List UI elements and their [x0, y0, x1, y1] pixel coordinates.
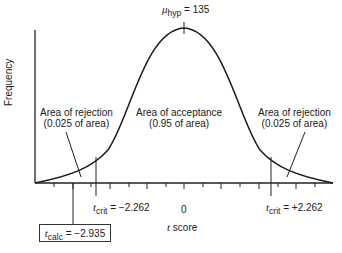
center-tick-label: 0 — [181, 204, 187, 215]
left-critical-label: tcrit = −2.262 — [93, 202, 150, 214]
calc-subscript: calc — [48, 232, 63, 242]
right-rejection-line2: (0.025 of area) — [258, 118, 331, 129]
right-rejection-line1: Area of rejection — [258, 107, 331, 118]
left-rejection-label: Area of rejection (0.025 of area) — [40, 107, 113, 129]
peak-value: = 135 — [184, 4, 209, 15]
mu-symbol: μ — [162, 3, 168, 15]
peak-subscript: hyp — [168, 8, 182, 18]
t-symbol: t — [167, 221, 170, 233]
acceptance-label: Area of acceptance (0.95 of area) — [136, 107, 222, 129]
right-tail-pointer — [287, 132, 305, 177]
left-tail-pointer — [66, 132, 81, 177]
crit-subscript: crit — [269, 206, 280, 216]
left-critical-value: = −2.262 — [110, 202, 149, 213]
left-rejection-line1: Area of rejection — [40, 107, 113, 118]
acceptance-line1: Area of acceptance — [136, 107, 222, 118]
right-critical-label: tcrit = +2.262 — [266, 202, 323, 214]
right-critical-value: = +2.262 — [283, 202, 322, 213]
y-axis-label: Frequency — [3, 59, 14, 106]
crit-subscript: crit — [96, 206, 107, 216]
x-axis-label: t t score score — [167, 222, 197, 233]
x-axis-ticks — [54, 183, 315, 189]
bell-curve — [35, 28, 333, 183]
acceptance-line2: (0.95 of area) — [136, 118, 222, 129]
x-axis-label-score: score — [173, 222, 197, 233]
right-rejection-label: Area of rejection (0.025 of area) — [258, 107, 331, 129]
peak-label: μhyp = 135 — [162, 4, 209, 16]
calculated-value: = −2.935 — [66, 228, 105, 239]
left-rejection-line2: (0.025 of area) — [40, 118, 113, 129]
calculated-value-box: tcalc = −2.935 — [39, 224, 111, 242]
